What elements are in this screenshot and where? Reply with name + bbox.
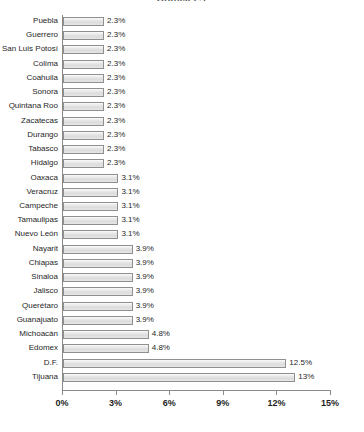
bar-row: Querétaro3.9% [0, 301, 364, 312]
bar [63, 216, 118, 225]
category-label: Querétaro [0, 300, 58, 311]
bar [63, 273, 133, 282]
bar [63, 316, 133, 325]
bar-value-label: 3.9% [136, 314, 154, 325]
bar-value-label: 2.3% [107, 15, 125, 26]
chart-title: Gráfica 2.1 [0, 0, 364, 1]
category-label: Tabasco [0, 143, 58, 154]
bar [63, 202, 118, 211]
bar [63, 17, 104, 26]
bar [63, 330, 149, 339]
bar-row: San Luis Potosí2.3% [0, 44, 364, 55]
bar-value-label: 3.1% [121, 214, 139, 225]
category-label: Michoacán [0, 328, 58, 339]
category-label: Quintana Roo [0, 100, 58, 111]
bar-row: Tabasco2.3% [0, 144, 364, 155]
x-axis-line [62, 390, 331, 391]
category-label: Tijuana [0, 371, 58, 382]
bar-row: Chiapas3.9% [0, 258, 364, 269]
bar-row: Sonora2.3% [0, 87, 364, 98]
bar [63, 74, 104, 83]
bar-value-label: 12.5% [289, 357, 312, 368]
category-label: Hidalgo [0, 157, 58, 168]
category-label: Puebla [0, 15, 58, 26]
bar [63, 287, 133, 296]
x-axis-tick [116, 390, 117, 395]
bar-value-label: 3.9% [136, 257, 154, 268]
bar-value-label: 2.3% [107, 58, 125, 69]
bar-value-label: 3.9% [136, 271, 154, 282]
category-label: Guanajuato [0, 314, 58, 325]
category-label: Coahuila [0, 72, 58, 83]
category-label: Guerrero [0, 29, 58, 40]
x-axis-tick-label: 9% [203, 398, 243, 408]
bar-value-label: 13% [298, 371, 314, 382]
x-axis-tick-label: 6% [149, 398, 189, 408]
bar [63, 131, 104, 140]
bar-row: D.F.12.5% [0, 358, 364, 369]
bar-row: Hidalgo2.3% [0, 158, 364, 169]
category-label: Nayarit [0, 243, 58, 254]
bar-row: Puebla2.3% [0, 16, 364, 27]
bar-value-label: 3.1% [121, 200, 139, 211]
category-label: Durango [0, 129, 58, 140]
bar-row: Jalisco3.9% [0, 286, 364, 297]
bar [63, 88, 104, 97]
category-label: Sonora [0, 86, 58, 97]
bar-row: Nuevo León3.1% [0, 229, 364, 240]
bar [63, 102, 104, 111]
bar [63, 188, 118, 197]
x-axis-tick-label: 15% [310, 398, 350, 408]
bar [63, 174, 118, 183]
bar [63, 31, 104, 40]
bar [63, 230, 118, 239]
bar-value-label: 3.1% [121, 186, 139, 197]
category-label: Chiapas [0, 257, 58, 268]
bar-value-label: 3.1% [121, 172, 139, 183]
x-axis-tick [223, 390, 224, 395]
bar-row: Colima2.3% [0, 59, 364, 70]
bar-row: Oaxaca3.1% [0, 173, 364, 184]
bar-row: Edomex4.8% [0, 343, 364, 354]
bar-value-label: 2.3% [107, 129, 125, 140]
bar-row: Zacatecas2.3% [0, 116, 364, 127]
bar [63, 60, 104, 69]
bar [63, 45, 104, 54]
bar-value-label: 3.9% [136, 243, 154, 254]
bar-row: Tijuana13% [0, 372, 364, 383]
bar [63, 159, 104, 168]
x-axis-tick [330, 390, 331, 395]
bar-value-label: 3.1% [121, 228, 139, 239]
bar-value-label: 3.9% [136, 300, 154, 311]
bar [63, 145, 104, 154]
bar-row: Sinaloa3.9% [0, 272, 364, 283]
category-label: Nuevo León [0, 228, 58, 239]
bar-row: Campeche3.1% [0, 201, 364, 212]
bar [63, 344, 149, 353]
category-label: Campeche [0, 200, 58, 211]
category-label: D.F. [0, 357, 58, 368]
bar-value-label: 4.8% [152, 342, 170, 353]
category-label: Sinaloa [0, 271, 58, 282]
bar-value-label: 2.3% [107, 29, 125, 40]
bar-value-label: 3.9% [136, 285, 154, 296]
category-label: Jalisco [0, 285, 58, 296]
bar-row: Guanajuato3.9% [0, 315, 364, 326]
bar-row: Tamaulipas3.1% [0, 215, 364, 226]
bar [63, 373, 295, 382]
category-label: Zacatecas [0, 115, 58, 126]
bar-value-label: 2.3% [107, 72, 125, 83]
bar-row: Durango2.3% [0, 130, 364, 141]
bar-row: Quintana Roo2.3% [0, 101, 364, 112]
bar [63, 245, 133, 254]
x-axis-tick [169, 390, 170, 395]
bar-value-label: 2.3% [107, 143, 125, 154]
bar-value-label: 2.3% [107, 86, 125, 97]
bar-value-label: 2.3% [107, 115, 125, 126]
x-axis-tick [62, 390, 63, 395]
bar [63, 117, 104, 126]
bar-value-label: 2.3% [107, 157, 125, 168]
bar-row: Nayarit3.9% [0, 244, 364, 255]
category-label: Edomex [0, 342, 58, 353]
x-axis-tick [276, 390, 277, 395]
